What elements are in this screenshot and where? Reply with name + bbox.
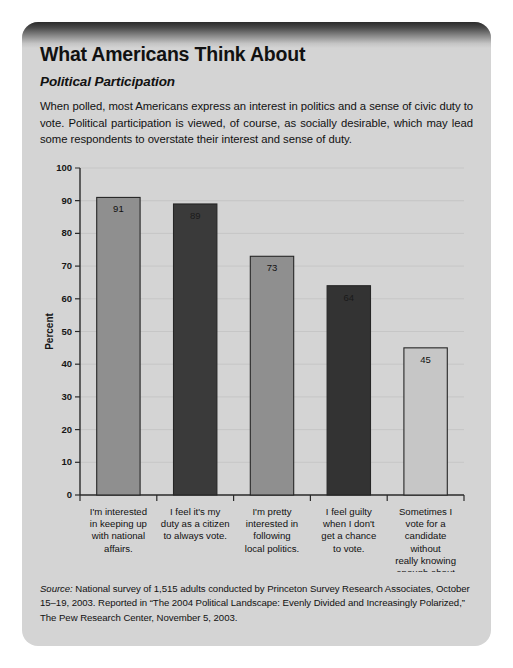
x-axis-category-label: to always vote.: [163, 530, 226, 541]
y-axis-tick-label: 10: [61, 456, 72, 467]
y-axis-title: Percent: [44, 312, 55, 349]
x-axis-category-label: interested in: [246, 518, 298, 529]
bar-value-label: 73: [267, 262, 278, 273]
page: What Americans Think About Political Par…: [0, 0, 513, 668]
x-axis-category-label: get a chance: [321, 530, 376, 541]
x-axis-category-label: I'm pretty: [252, 506, 291, 517]
x-axis-category-label: Sometimes I: [399, 506, 452, 517]
y-axis-tick-label: 90: [61, 195, 72, 206]
x-axis-category-label: I'm interested: [90, 506, 147, 517]
x-axis-category-label: enough about: [396, 567, 455, 572]
x-axis-category-label: really knowing: [395, 555, 456, 566]
x-axis-category-label: local politics.: [245, 542, 299, 553]
source-label: Source:: [40, 583, 73, 594]
x-axis-category-label: duty as a citizen: [161, 518, 230, 529]
y-axis-tick-label: 40: [61, 358, 72, 369]
y-axis-tick-label: 60: [61, 293, 72, 304]
intro-paragraph: When polled, most Americans express an i…: [40, 98, 473, 147]
source-text: National survey of 1,515 adults conducte…: [40, 583, 470, 623]
x-axis-category-label: to vote.: [333, 542, 364, 553]
bar: [174, 204, 217, 495]
page-title: What Americans Think About: [40, 22, 473, 65]
bar-value-label: 64: [344, 292, 355, 303]
x-axis-category-label: following: [253, 530, 290, 541]
x-axis-category-label: I feel guilty: [326, 506, 372, 517]
bar: [250, 256, 293, 495]
bar: [404, 348, 447, 495]
x-axis-category-label: vote for a: [406, 518, 447, 529]
bar-value-label: 45: [420, 354, 431, 365]
x-axis-category-label: affairs.: [104, 542, 133, 553]
bar-value-label: 89: [190, 210, 201, 221]
y-axis-tick-label: 0: [67, 489, 72, 500]
x-axis-category-label: without: [409, 542, 441, 553]
bar-chart-svg: 0102030405060708090100Percent91I'm inter…: [40, 160, 473, 572]
bar: [327, 286, 370, 495]
x-axis-category-label: with national: [91, 530, 145, 541]
y-axis-tick-label: 100: [56, 162, 72, 173]
source-note: Source: National survey of 1,515 adults …: [40, 582, 473, 625]
y-axis-tick-label: 80: [61, 227, 72, 238]
bar-value-label: 91: [113, 203, 124, 214]
bar: [97, 197, 140, 495]
x-axis-category-label: in keeping up: [90, 518, 147, 529]
y-axis-tick-label: 50: [61, 325, 72, 336]
card-content: What Americans Think About Political Par…: [22, 22, 491, 646]
x-axis-category-label: when I don't: [322, 518, 375, 529]
x-axis-category-label: candidate: [405, 530, 447, 541]
y-axis-tick-label: 70: [61, 260, 72, 271]
bar-chart: 0102030405060708090100Percent91I'm inter…: [40, 160, 473, 572]
page-subtitle: Political Participation: [40, 74, 473, 89]
y-axis-tick-label: 20: [61, 423, 72, 434]
x-axis-category-label: I feel it's my: [170, 506, 221, 517]
y-axis-tick-label: 30: [61, 391, 72, 402]
infographic-card: What Americans Think About Political Par…: [22, 22, 491, 646]
